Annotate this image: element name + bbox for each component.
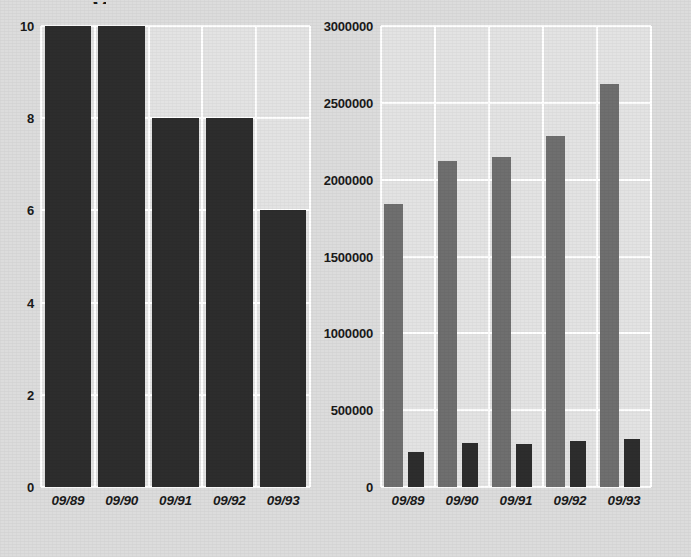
x-axis-tick-label: 09/89 [51, 493, 84, 508]
chart-figure: y 0246810 09/8909/9009/9109/9209/93 0500… [0, 0, 691, 557]
y-axis-tick-label: 10 [20, 19, 34, 34]
x-axis-tick-label: 09/90 [446, 493, 479, 508]
gridline-vertical [309, 26, 311, 487]
return-on-capital-chart: 0246810 09/8909/9009/9109/9209/93 [0, 0, 345, 512]
bar [570, 441, 586, 487]
gridline-vertical [542, 26, 544, 487]
gridline-horizontal [381, 25, 651, 27]
y-axis-tick-label: 1500000 [324, 249, 373, 264]
bar [546, 136, 564, 487]
gridline-vertical [255, 26, 257, 487]
bar [438, 161, 456, 487]
y-axis-tick-label: 0 [366, 480, 373, 495]
x-axis-tick-label: 09/92 [554, 493, 587, 508]
x-axis-tick-label: 09/91 [500, 493, 533, 508]
bar [152, 118, 199, 487]
y-axis-tick-label: 8 [27, 111, 34, 126]
y-axis-tick-label: 2500000 [324, 95, 373, 110]
bar [260, 210, 307, 487]
bar [492, 157, 510, 487]
bar [206, 118, 253, 487]
bar [45, 26, 92, 487]
gridline-vertical [94, 26, 96, 487]
sales-and-profit-chart: 0500000100000015000002000000250000030000… [330, 0, 691, 512]
y-axis-tick-label: 1000000 [324, 326, 373, 341]
x-axis-tick-label: 09/92 [213, 493, 246, 508]
gridline-vertical [596, 26, 598, 487]
bar [462, 443, 478, 487]
bar [516, 444, 532, 487]
gridline-vertical [201, 26, 203, 487]
x-axis-tick-label: 09/91 [159, 493, 192, 508]
y-axis-tick-label: 6 [27, 203, 34, 218]
y-axis-tick-label: 2 [27, 387, 34, 402]
gridline-vertical [40, 26, 42, 487]
chart-legend: Return on capital (per cent) Sales reven… [0, 512, 691, 557]
bar [384, 204, 402, 487]
x-axis-tick-label: 09/90 [105, 493, 138, 508]
y-axis-tick-label: 0 [27, 480, 34, 495]
y-axis-tick-label: 3000000 [324, 19, 373, 34]
y-axis-tick-label: 4 [27, 295, 34, 310]
bar [624, 439, 640, 487]
x-axis-tick-label: 09/93 [267, 493, 300, 508]
bar [408, 452, 424, 487]
gridline-vertical [148, 26, 150, 487]
y-axis-tick-label: 2000000 [324, 172, 373, 187]
bar [98, 26, 145, 487]
y-axis-tick-label: 500000 [331, 403, 373, 418]
x-axis-tick-label: 09/93 [608, 493, 641, 508]
bar [600, 84, 618, 487]
gridline-vertical [650, 26, 652, 487]
gridline-vertical [434, 26, 436, 487]
gridline-vertical [380, 26, 382, 487]
x-axis-tick-label: 09/89 [392, 493, 425, 508]
gridline-vertical [488, 26, 490, 487]
